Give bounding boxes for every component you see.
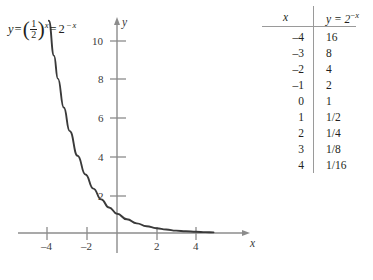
one-half-fraction: 12 <box>30 19 37 41</box>
equation-rhs-base: 2 <box>57 22 65 36</box>
table-cell-y: 1/2 <box>314 109 363 125</box>
y-axis-arrow-icon <box>114 17 120 25</box>
table-row: –12 <box>258 77 362 93</box>
table-header-y-exponent-var: x <box>355 10 359 20</box>
table-row: –24 <box>258 61 362 77</box>
x-axis-arrow-icon <box>242 230 250 236</box>
right-paren: ) <box>38 21 45 37</box>
table-cell-y: 1 <box>314 93 363 109</box>
value-table: x y = 2−x –416–38–24–120111/221/431/841/… <box>258 6 362 173</box>
table-header-x: x <box>258 6 314 29</box>
equation-annotation: y=(12)x=2−x <box>8 19 76 41</box>
y-tick-label-2: 2 <box>98 191 104 202</box>
table-header-y: y = 2−x <box>314 6 363 29</box>
table-cell-y: 2 <box>314 77 363 93</box>
x-tick-label-2: 2 <box>154 241 160 252</box>
table-header-y-base: y = 2 <box>326 13 350 25</box>
table-cell-y: 16 <box>314 29 363 45</box>
table-row: 01 <box>258 93 362 109</box>
exponential-curve <box>49 21 214 233</box>
x-tick-label-minus4: –4 <box>41 241 52 252</box>
equation-lhs: y <box>8 22 14 36</box>
y-tick-label-6: 6 <box>98 113 104 124</box>
table-cell-y: 1/4 <box>314 125 363 141</box>
table-header-row: x y = 2−x <box>258 6 362 29</box>
table-cell-x: 4 <box>258 157 314 173</box>
y-tick-label-8: 8 <box>98 74 104 85</box>
table-cell-x: –3 <box>258 45 314 61</box>
x-axis-label: x <box>250 238 255 250</box>
fraction-denominator: 2 <box>30 29 37 41</box>
y-axis-label: y <box>122 17 127 29</box>
y-tick-label-10: 10 <box>92 36 103 47</box>
table-row: 11/2 <box>258 109 362 125</box>
table-row: –38 <box>258 45 362 61</box>
table-cell-x: 3 <box>258 141 314 157</box>
table-cell-y: 4 <box>314 61 363 77</box>
table-cell-x: 1 <box>258 109 314 125</box>
table-row: 41/16 <box>258 157 362 173</box>
table-cell-x: –4 <box>258 29 314 45</box>
equation-equals: = <box>14 22 23 36</box>
table-cell-x: –1 <box>258 77 314 93</box>
table-header-y-exponent: −x <box>350 10 359 20</box>
table-row: 31/8 <box>258 141 362 157</box>
table-cell-y: 1/8 <box>314 141 363 157</box>
equation-rhs-exponent: −x <box>66 20 77 30</box>
equation-rhs-exponent-var: x <box>73 20 77 30</box>
table-cell-y: 1/16 <box>314 157 363 173</box>
equation-rhs-exponent-sign: − <box>66 20 73 30</box>
table-cell-x: 2 <box>258 125 314 141</box>
y-tick-label-4: 4 <box>98 152 104 163</box>
table-cell-y: 8 <box>314 45 363 61</box>
table-cell-x: –2 <box>258 61 314 77</box>
x-tick-label-minus2: –2 <box>81 241 92 252</box>
table-row: –416 <box>258 29 362 45</box>
x-tick-label-4: 4 <box>193 241 199 252</box>
fraction-numerator: 1 <box>30 19 37 30</box>
table-cell-x: 0 <box>258 93 314 109</box>
left-paren: ( <box>23 21 30 37</box>
table-row: 21/4 <box>258 125 362 141</box>
